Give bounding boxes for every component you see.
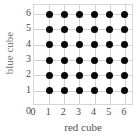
- x-axis-tick-label: 3: [71, 107, 85, 117]
- data-point: [76, 11, 83, 18]
- data-point: [46, 26, 53, 33]
- data-point: [91, 87, 98, 94]
- data-point: [76, 26, 83, 33]
- data-point: [46, 57, 53, 64]
- data-point: [91, 72, 98, 79]
- data-point: [91, 11, 98, 18]
- data-point: [121, 57, 128, 64]
- data-point: [91, 41, 98, 48]
- x-axis-tick-label: 4: [87, 107, 101, 117]
- data-point: [106, 11, 113, 18]
- data-point: [106, 72, 113, 79]
- y-axis-tick-label: 1: [17, 85, 31, 95]
- y-axis-label: blue cube: [3, 13, 15, 93]
- data-point: [61, 72, 68, 79]
- data-point: [46, 72, 53, 79]
- data-point: [121, 72, 128, 79]
- data-point: [106, 26, 113, 33]
- x-axis-tick-label: 5: [102, 107, 116, 117]
- plot-area: [33, 4, 133, 105]
- y-axis-tick-label: 4: [17, 39, 31, 49]
- y-axis-tick-label: 2: [17, 69, 31, 79]
- data-point: [46, 41, 53, 48]
- data-point: [76, 87, 83, 94]
- data-point: [46, 11, 53, 18]
- y-axis-tick-label: 3: [17, 54, 31, 64]
- data-point: [76, 57, 83, 64]
- data-point: [91, 57, 98, 64]
- data-point: [121, 87, 128, 94]
- data-point: [46, 87, 53, 94]
- data-point: [121, 41, 128, 48]
- data-point: [61, 26, 68, 33]
- x-axis-tick-label: 0: [26, 107, 40, 117]
- data-point: [121, 11, 128, 18]
- x-axis-tick-label: 2: [56, 107, 70, 117]
- data-point: [76, 72, 83, 79]
- x-axis-tick-label: 1: [41, 107, 55, 117]
- data-point: [61, 57, 68, 64]
- data-point: [91, 26, 98, 33]
- data-point: [76, 41, 83, 48]
- x-axis-tick-label: 6: [117, 107, 131, 117]
- data-point: [106, 87, 113, 94]
- x-axis-label: red cube: [33, 121, 133, 133]
- data-point: [106, 41, 113, 48]
- data-point: [121, 26, 128, 33]
- y-axis-tick-labels: 654321: [17, 4, 31, 105]
- chart-screenshot: 654321 0 0123456 red cube blue cube: [0, 0, 140, 140]
- data-point: [106, 57, 113, 64]
- y-axis-tick-label: 5: [17, 23, 31, 33]
- y-axis-tick-label: 6: [17, 8, 31, 18]
- data-point: [61, 11, 68, 18]
- data-point: [61, 87, 68, 94]
- data-point: [61, 41, 68, 48]
